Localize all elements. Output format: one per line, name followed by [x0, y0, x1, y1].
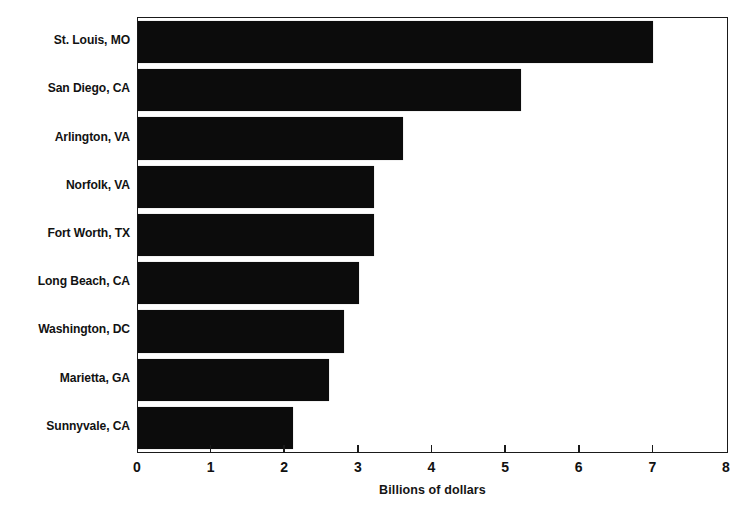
bar — [138, 69, 521, 111]
x-axis-tick-label: 6 — [575, 459, 583, 475]
x-axis-tick-mark — [283, 445, 285, 453]
x-axis-tick-mark — [431, 445, 433, 453]
bar — [138, 117, 403, 159]
x-axis-tick-label: 7 — [648, 459, 656, 475]
y-axis-tick-label: Marietta, GA — [4, 371, 130, 385]
x-axis: 012345678 — [137, 453, 728, 507]
y-axis-tick-label: Norfolk, VA — [4, 178, 130, 192]
y-axis-tick-label: Arlington, VA — [4, 130, 130, 144]
y-axis-tick-label: St. Louis, MO — [4, 33, 130, 47]
bars-layer — [138, 18, 727, 452]
bar — [138, 214, 374, 256]
y-axis-tick-label: Fort Worth, TX — [4, 226, 130, 240]
bar — [138, 262, 359, 304]
bar — [138, 21, 653, 63]
x-axis-tick-mark — [210, 445, 212, 453]
x-axis-tick-label: 5 — [501, 459, 509, 475]
x-axis-tick-label: 3 — [354, 459, 362, 475]
chart-title-clipped — [150, 0, 570, 3]
y-axis-tick-label: Washington, DC — [4, 322, 130, 336]
bar — [138, 407, 293, 449]
bar — [138, 359, 329, 401]
x-axis-tick-label: 1 — [207, 459, 215, 475]
bar-chart: St. Louis, MOSan Diego, CAArlington, VAN… — [0, 0, 743, 507]
bar — [138, 166, 374, 208]
x-axis-tick-label: 4 — [428, 459, 436, 475]
x-axis-title: Billions of dollars — [137, 483, 728, 497]
y-axis-tick-label: Long Beach, CA — [4, 274, 130, 288]
x-axis-tick-mark — [504, 445, 506, 453]
x-axis-tick-mark — [578, 445, 580, 453]
y-axis-tick-label: San Diego, CA — [4, 81, 130, 95]
x-axis-tick-label: 8 — [722, 459, 730, 475]
x-axis-tick-mark — [652, 445, 654, 453]
x-axis-tick-mark — [357, 445, 359, 453]
y-axis-category-labels: St. Louis, MOSan Diego, CAArlington, VAN… — [0, 17, 130, 453]
y-axis-tick-label: Sunnyvale, CA — [4, 419, 130, 433]
bar — [138, 310, 344, 352]
x-axis-tick-label: 0 — [133, 459, 141, 475]
x-axis-tick-label: 2 — [280, 459, 288, 475]
